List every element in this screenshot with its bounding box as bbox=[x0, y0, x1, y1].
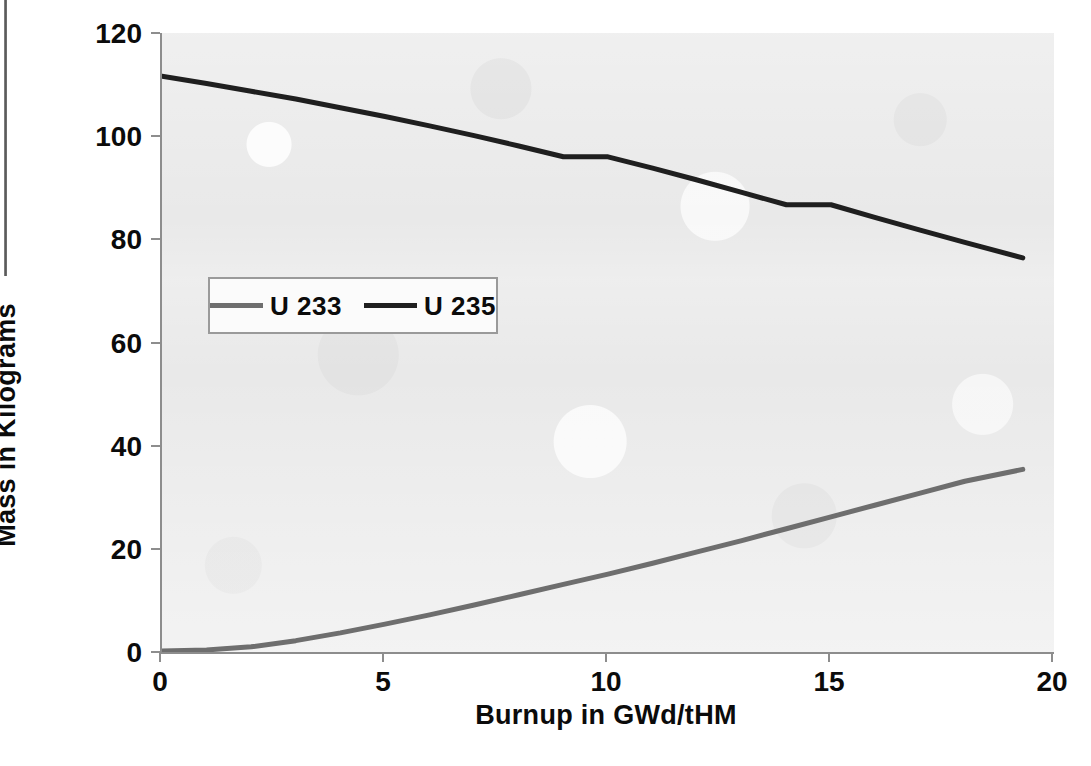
x-tick-mark-5 bbox=[382, 653, 384, 662]
legend-entry-u233: U 233 bbox=[210, 293, 342, 319]
scan-artifact-line bbox=[4, 0, 7, 276]
y-tick-label-20: 20 bbox=[82, 536, 142, 564]
x-tick-mark-0 bbox=[159, 653, 161, 662]
x-tick-label-20: 20 bbox=[1022, 668, 1082, 696]
data-curves bbox=[162, 33, 1054, 652]
y-tick-label-60: 60 bbox=[82, 330, 142, 358]
x-axis-title: Burnup in GWd/tHM bbox=[160, 700, 1052, 731]
legend-entry-u235: U 235 bbox=[364, 293, 496, 319]
x-tick-mark-20 bbox=[1051, 653, 1053, 662]
y-tick-mark-40 bbox=[151, 445, 160, 447]
legend-label-u235: U 235 bbox=[424, 293, 496, 319]
y-tick-label-120: 120 bbox=[82, 20, 142, 48]
y-tick-mark-100 bbox=[151, 135, 160, 137]
y-tick-label-100: 100 bbox=[82, 123, 142, 151]
legend-line-swatch-u235 bbox=[364, 303, 417, 308]
x-tick-label-5: 5 bbox=[353, 668, 413, 696]
y-tick-mark-20 bbox=[151, 548, 160, 550]
x-tick-label-0: 0 bbox=[130, 668, 190, 696]
legend: U 233 U 235 bbox=[208, 277, 498, 334]
y-axis-title: Mass in Kilograms bbox=[0, 265, 22, 585]
y-tick-mark-60 bbox=[151, 342, 160, 344]
series-line-u233 bbox=[162, 469, 1023, 651]
x-tick-mark-10 bbox=[605, 653, 607, 662]
plot-area bbox=[160, 33, 1054, 654]
x-tick-mark-15 bbox=[828, 653, 830, 662]
y-tick-label-80: 80 bbox=[82, 226, 142, 254]
legend-label-u233: U 233 bbox=[270, 293, 342, 319]
chart-figure: 120 100 80 60 40 20 0 0 5 10 15 20 Mass … bbox=[0, 0, 1091, 766]
x-tick-label-10: 10 bbox=[576, 668, 636, 696]
x-tick-label-15: 15 bbox=[799, 668, 859, 696]
y-tick-label-0: 0 bbox=[82, 639, 142, 667]
legend-line-swatch-u233 bbox=[210, 303, 263, 308]
y-tick-mark-120 bbox=[151, 32, 160, 34]
series-line-u235 bbox=[162, 76, 1023, 258]
y-tick-label-40: 40 bbox=[82, 433, 142, 461]
y-tick-mark-80 bbox=[151, 238, 160, 240]
